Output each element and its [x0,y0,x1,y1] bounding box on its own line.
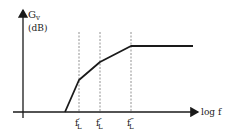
label-fL2: f″L [96,117,103,131]
gain-curve [65,46,193,112]
y-axis-label: Gv [28,9,40,22]
label-fL3: f‴L [127,117,134,131]
y-axis-unit: (dB) [28,23,47,33]
label-fL1: f′L [75,117,82,131]
x-axis-label: log f [201,107,222,117]
bode-diagram: Gv (dB) log f f′L f″L f‴L [0,0,236,139]
